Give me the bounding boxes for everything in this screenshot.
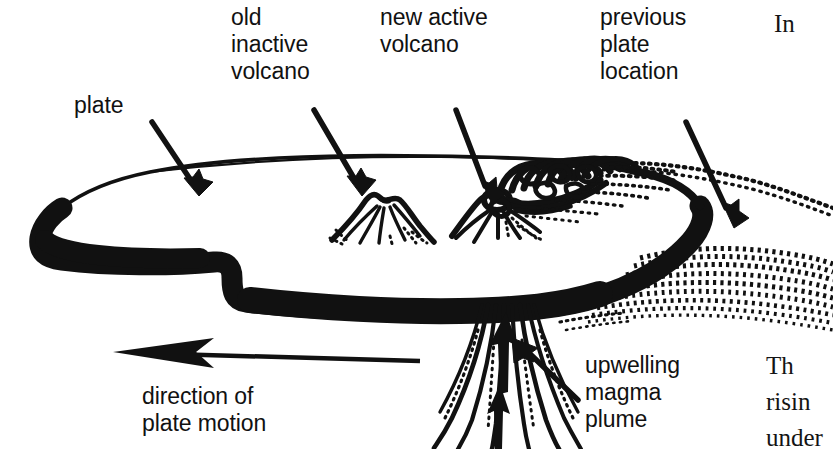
body-text-top-right-clipped: In [774, 6, 795, 42]
magma-plume [434, 305, 581, 449]
arrow-plate [152, 122, 213, 196]
label-plate: plate [74, 92, 123, 119]
old-inactive-volcano [330, 195, 434, 247]
label-previous-plate-location: previous plate location [600, 4, 686, 85]
label-new-active-volcano: new active volcano [380, 4, 488, 58]
label-old-inactive-volcano: old inactive volcano [231, 4, 310, 85]
arrow-old-volcano [314, 110, 376, 196]
plate-motion-arrow [113, 338, 420, 368]
hotspot-volcano-diagram [0, 0, 833, 449]
label-direction-of-plate-motion: direction of plate motion [142, 383, 266, 437]
label-upwelling-magma-plume: upwelling magma plume [585, 352, 680, 433]
arrow-magma-plume [512, 338, 578, 400]
body-text-bottom-right-clipped: Th risin under [766, 348, 823, 449]
